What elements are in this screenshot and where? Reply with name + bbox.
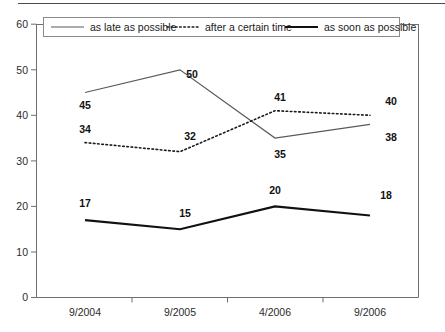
series-line-as-late-as-possible bbox=[85, 70, 370, 138]
series-line-after-a-certain-time bbox=[85, 111, 370, 152]
line-chart: 0 10 20 30 40 50 60 9/2004 9/2005 4/2006… bbox=[0, 0, 445, 332]
value-label: 34 bbox=[79, 123, 91, 135]
value-label: 17 bbox=[79, 197, 91, 209]
series-after-a-certain-time bbox=[85, 111, 370, 152]
value-label: 35 bbox=[274, 148, 286, 160]
chart-legend: as late as possible after a certain time… bbox=[44, 18, 417, 37]
y-tick-label-20: 20 bbox=[16, 200, 28, 212]
value-label: 41 bbox=[274, 91, 286, 103]
y-tick-label-50: 50 bbox=[16, 64, 28, 76]
y-tick-label-40: 40 bbox=[16, 109, 28, 121]
value-label: 45 bbox=[79, 99, 91, 111]
value-label: 40 bbox=[385, 95, 397, 107]
x-category-label-2: 4/2006 bbox=[259, 306, 291, 318]
y-tick-label-10: 10 bbox=[16, 246, 28, 258]
value-label: 20 bbox=[269, 184, 281, 196]
series-as-soon-as-possible bbox=[85, 206, 370, 229]
x-category-label-1: 9/2005 bbox=[164, 306, 196, 318]
legend-label-after-a-certain-time: after a certain time bbox=[205, 21, 292, 33]
x-axis: 9/2004 9/2005 4/2006 9/2006 bbox=[69, 298, 386, 319]
legend-label-as-soon-as-possible: as soon as possible bbox=[324, 21, 416, 33]
plot-frame bbox=[37, 24, 419, 298]
value-label: 18 bbox=[380, 189, 392, 201]
value-label: 32 bbox=[184, 130, 196, 142]
legend-label-as-late-as-possible: as late as possible bbox=[90, 21, 177, 33]
value-label: 15 bbox=[179, 207, 191, 219]
chart-page: 0 10 20 30 40 50 60 9/2004 9/2005 4/2006… bbox=[0, 0, 445, 332]
value-labels-after-a-certain-time: 34 32 41 40 bbox=[79, 91, 397, 142]
value-label: 38 bbox=[385, 131, 397, 143]
value-label: 50 bbox=[186, 68, 198, 80]
y-tick-label-60: 60 bbox=[16, 18, 28, 30]
series-as-late-as-possible bbox=[85, 70, 370, 138]
x-category-label-3: 9/2006 bbox=[354, 306, 386, 318]
series-line-as-soon-as-possible bbox=[85, 206, 370, 229]
y-axis: 0 10 20 30 40 50 60 bbox=[16, 18, 36, 303]
y-tick-label-0: 0 bbox=[22, 291, 28, 303]
x-category-label-0: 9/2004 bbox=[69, 306, 101, 318]
y-tick-label-30: 30 bbox=[16, 155, 28, 167]
